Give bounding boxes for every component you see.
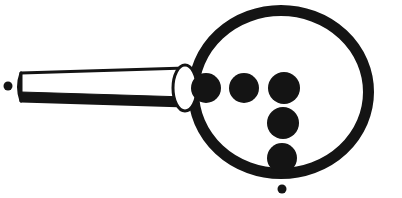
figure-canvas: Magnifying glass line drawing with five … xyxy=(0,0,402,198)
dot-row1-right xyxy=(268,72,300,104)
dot-row3-center xyxy=(267,143,297,173)
dot-row1-left xyxy=(191,73,221,103)
handle-group xyxy=(19,68,187,106)
dot-row2-center xyxy=(267,107,299,139)
speck-bottom xyxy=(278,185,287,194)
speck-left xyxy=(4,82,13,91)
dot-row1-center xyxy=(229,73,259,103)
magnifier-drawing xyxy=(0,0,402,198)
